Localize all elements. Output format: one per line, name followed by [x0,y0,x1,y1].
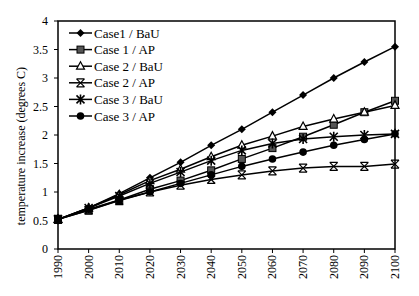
legend-label: Case 2 / BaU [94,59,164,74]
y-tick-label: 3 [42,71,48,85]
x-tick-label: 2050 [235,255,249,279]
square-marker-icon [238,155,245,162]
square-marker-icon [77,46,84,53]
circle-marker-icon [299,148,307,156]
circle-marker-icon [238,163,246,171]
diamond-marker-icon [238,125,246,133]
y-tick-label: 4 [42,14,48,28]
circle-marker-icon [207,171,215,179]
legend-label: Case 2 / AP [94,75,155,90]
x-tick-label: 2060 [265,255,279,279]
legend-label: Case 1 / AP [94,42,155,57]
x-tick-label: 2040 [204,255,218,279]
circle-marker-icon [361,136,369,144]
x-tick-label: 2030 [174,255,188,279]
legend: Case1 / BaUCase 1 / APCase 2 / BaUCase 2… [69,26,164,124]
y-axis-label: temperature increase (degrees C) [14,67,28,225]
y-tick-label: 1 [42,185,48,199]
chart-canvas: 00.511.522.533.54 1990200020102020203020… [0,0,419,296]
x-tick-label: 2090 [357,255,371,279]
circle-marker-icon [85,205,93,213]
legend-item: Case1 / BaU [69,26,160,41]
x-axis: 1990200020102020203020402050206020702080… [51,249,402,279]
legend-label: Case1 / BaU [94,26,160,41]
x-tick-label: 2070 [296,255,310,279]
circle-marker-icon [269,155,277,163]
series-case-2-ap [54,160,399,223]
y-tick-label: 2 [42,128,48,142]
y-tick-label: 3.5 [33,43,48,57]
y-tick-label: 0.5 [33,214,48,228]
circle-marker-icon [330,141,338,149]
diamond-marker-icon [268,108,276,116]
y-tick-label: 1.5 [33,157,48,171]
circle-marker-icon [177,180,185,188]
diamond-marker-icon [77,29,85,37]
x-tick-label: 2100 [388,255,402,279]
x-tick-label: 2080 [327,255,341,279]
x-tick-label: 1990 [51,255,65,279]
asterisk-marker-icon [207,156,215,166]
circle-marker-icon [54,216,62,224]
legend-label: Case 3 / BaU [94,92,164,107]
diamond-marker-icon [330,74,338,82]
x-tick-label: 2010 [112,255,126,279]
diamond-marker-icon [391,43,399,51]
legend-item: Case 3 / BaU [69,92,164,107]
circle-marker-icon [391,130,399,138]
circle-marker-icon [115,196,123,204]
x-tick-label: 2000 [82,255,96,279]
diamond-marker-icon [299,91,307,99]
circle-marker-icon [146,188,154,196]
diamond-marker-icon [207,141,215,149]
legend-item: Case 2 / BaU [69,59,164,74]
circle-marker-icon [77,112,85,120]
x-tick-label: 2020 [143,255,157,279]
legend-item: Case 1 / AP [69,42,155,57]
y-tick-label: 0 [42,242,48,256]
legend-label: Case 3 / AP [94,109,155,124]
legend-item: Case 3 / AP [69,109,155,124]
y-tick-label: 2.5 [33,100,48,114]
line-chart: 00.511.522.533.54 1990200020102020203020… [0,0,419,296]
series-line [58,164,395,219]
diamond-marker-icon [360,58,368,66]
legend-item: Case 2 / AP [69,75,155,90]
